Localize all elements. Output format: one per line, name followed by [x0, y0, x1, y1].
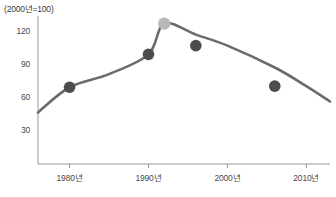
data-point-marker [269, 80, 281, 92]
data-point-marker [64, 81, 76, 93]
data-point-marker [143, 49, 155, 61]
data-point-marker-highlight [158, 17, 170, 29]
line-chart: (2000년=100) 306090120 1980년1990년2000년201… [0, 0, 336, 197]
x-tick-label: 2000년 [197, 171, 257, 183]
axes [38, 16, 330, 164]
series-line [38, 23, 330, 112]
x-tick-label: 2010년 [276, 171, 336, 183]
y-tick-label: 60 [4, 92, 30, 102]
data-point-marker [190, 40, 202, 52]
y-tick-label: 30 [4, 125, 30, 135]
x-tick-label: 1980년 [40, 171, 100, 183]
x-axis-ticks [70, 164, 307, 168]
y-tick-label: 90 [4, 59, 30, 69]
x-tick-label: 1990년 [118, 171, 178, 183]
y-tick-label: 120 [4, 26, 30, 36]
plot-area [0, 0, 336, 197]
